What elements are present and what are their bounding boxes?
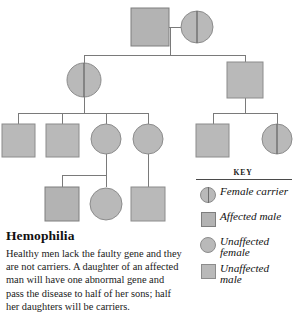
legend-item-affected-male: Affected male [196,210,292,232]
legend-symbol-cell [196,185,220,203]
pedigree-figure: Hemophilia Healthy men lack the faulty g… [0,0,297,320]
pedigree-node-III-3-female-carrier [91,124,121,154]
pedigree-node-III-1-unaffected-male [2,124,35,157]
legend: KEY Female carrier Affected male Unaffec… [196,168,292,289]
pedigree-node-I-1-affected-male [131,8,169,46]
legend-symbol-cell [196,262,220,279]
pedigree-node-IV-2-unaffected-female [90,188,122,220]
legend-title: KEY [196,168,292,177]
pedigree-node-III-2-unaffected-male [46,124,79,157]
pedigree-node-II-2-unaffected-male [227,62,263,98]
pedigree-node-I-2-female-carrier [181,11,213,43]
female-carrier-icon [200,187,216,203]
legend-symbol-cell [196,210,220,227]
legend-divider [196,179,292,180]
legend-item-female-carrier: Female carrier [196,185,292,207]
unaffected-male-icon [201,264,216,279]
pedigree-connector-lines [18,27,277,187]
caption-block: Hemophilia Healthy men lack the faulty g… [6,228,184,313]
caption-body: Healthy men lack the faulty gene and the… [6,247,184,313]
legend-item-unaffected-female: Unaffected female [196,235,292,259]
legend-item-label: Unaffected female [220,235,292,259]
legend-item-label: Female carrier [220,185,288,197]
pedigree-node-II-1-female-carrier [67,63,101,97]
caption-title: Hemophilia [6,228,184,244]
legend-symbol-cell [196,235,220,253]
pedigree-node-III-6-female-carrier [262,124,292,154]
legend-item-label: Affected male [220,210,281,222]
legend-item-label: Unaffected male [220,262,292,286]
pedigree-node-IV-1-affected-male [45,187,79,221]
legend-item-unaffected-male: Unaffected male [196,262,292,286]
unaffected-female-icon [200,237,216,253]
pedigree-node-III-5-unaffected-male [196,124,229,157]
pedigree-node-IV-3-unaffected-male [131,187,165,221]
pedigree-node-III-4-unaffected-female [133,124,163,154]
affected-male-icon [201,212,216,227]
